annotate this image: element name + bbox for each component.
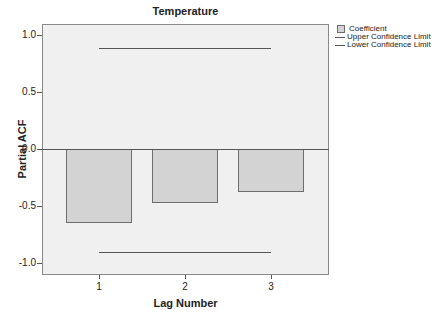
y-tick-label: -1.0 <box>6 257 36 268</box>
y-tick-mark <box>37 263 42 264</box>
x-axis-label: Lag Number <box>42 297 329 309</box>
x-tick-mark <box>185 275 186 279</box>
bar-lag-1 <box>66 149 132 223</box>
bar-lag-2 <box>152 149 218 203</box>
y-tick-label: 0.0 <box>6 143 36 154</box>
x-tick-mark <box>99 275 100 279</box>
y-tick-label: 1.0 <box>6 29 36 40</box>
y-tick-mark <box>37 35 42 36</box>
y-tick-mark <box>37 92 42 93</box>
x-tick-label: 2 <box>175 281 195 292</box>
x-tick-label: 3 <box>261 281 281 292</box>
legend-label: Lower Confidence Limit <box>347 41 431 49</box>
y-tick-mark <box>37 206 42 207</box>
y-tick-label: 0.5 <box>6 86 36 97</box>
legend: Coefficient Upper Confidence Limit Lower… <box>337 25 431 49</box>
legend-item-lower-confidence-limit: Lower Confidence Limit <box>337 41 431 49</box>
upper-confidence-limit-line <box>99 48 271 49</box>
x-tick-mark <box>271 275 272 279</box>
bar-lag-3 <box>238 149 304 192</box>
x-tick-label: 1 <box>89 281 109 292</box>
line-icon <box>335 37 345 38</box>
chart-title: Temperature <box>42 5 329 17</box>
swatch-icon <box>337 25 345 33</box>
lower-confidence-limit-line <box>99 252 271 253</box>
y-tick-label: -0.5 <box>6 200 36 211</box>
zero-reference-line <box>42 149 329 150</box>
line-icon <box>335 45 345 46</box>
